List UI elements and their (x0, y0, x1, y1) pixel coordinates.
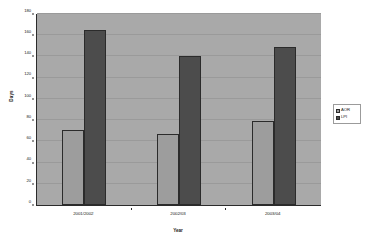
y-axis-tick-label: 20 (27, 178, 31, 182)
y-axis-tick-label: 180 (24, 9, 31, 13)
legend-swatch-icon (336, 116, 340, 120)
chart-legend: AORLPI (333, 104, 361, 124)
x-axis-tick-label: 2001/2002 (73, 211, 93, 216)
y-axis-tick-mark (32, 14, 34, 15)
bar-chart-figure: Days 020406080100120140160180 2001/20022… (0, 0, 369, 250)
y-axis-tick-mark (32, 56, 34, 57)
y-axis-tick-mark (32, 205, 34, 206)
legend-label: LPI (341, 115, 347, 119)
legend-item-aor[interactable]: AOR (336, 107, 358, 114)
bar-aor-0 (62, 130, 84, 205)
y-axis-tick-label: 120 (24, 72, 31, 76)
y-axis-tick-mark (32, 77, 34, 78)
y-axis-tick-mark (32, 98, 34, 99)
y-axis-tick-label: 100 (24, 94, 31, 98)
bar-aor-1 (157, 134, 179, 205)
x-axis-tick-labels: 2001/20022002/032003/04 (36, 208, 321, 220)
y-axis-tick-label: 0 (29, 200, 31, 204)
plot-area (36, 14, 321, 206)
x-axis-title: Year (173, 228, 183, 233)
x-axis-tick-label: 2002/03 (170, 211, 186, 216)
x-axis-tick-mark (131, 208, 132, 210)
y-axis-tick-label: 140 (24, 51, 31, 55)
bar-aor-2 (252, 121, 274, 205)
y-axis-tick-mark (32, 35, 34, 36)
y-axis-tick-mark (32, 183, 34, 184)
x-axis-tick-label: 2003/04 (265, 211, 281, 216)
y-axis-tick-mark (32, 120, 34, 121)
legend-item-lpi[interactable]: LPI (336, 114, 358, 121)
y-axis-tick-label: 80 (27, 115, 31, 119)
y-axis-tick-label: 40 (27, 157, 31, 161)
bar-lpi-1 (179, 56, 201, 205)
legend-label: AOR (341, 108, 350, 112)
bar-lpi-0 (84, 30, 106, 205)
gridline (37, 13, 321, 14)
y-axis-tick-mark (32, 162, 34, 163)
x-axis-tick-mark (225, 208, 226, 210)
y-axis-tick-mark (32, 141, 34, 142)
y-axis-tick-label: 160 (24, 30, 31, 34)
y-axis-tick-label: 60 (27, 136, 31, 140)
legend-swatch-icon (336, 109, 340, 113)
gridline (37, 34, 321, 35)
y-axis-tick-labels: 020406080100120140160180 (0, 14, 34, 206)
bar-lpi-2 (274, 47, 296, 205)
